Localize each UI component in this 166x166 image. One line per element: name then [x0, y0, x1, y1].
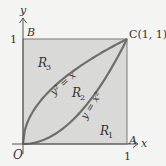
- x-axis-label: x: [141, 137, 148, 150]
- svg-text:1: 1: [108, 131, 113, 140]
- region-diagram: x y 1 1 O B A C(1, 1) y² = x y = x² R 3 …: [0, 0, 166, 166]
- x-tick-1: 1: [124, 150, 131, 163]
- point-b-label: B: [26, 26, 35, 39]
- y-tick-1: 1: [10, 33, 17, 46]
- point-a-label: A: [128, 134, 137, 147]
- y-axis-label: y: [19, 4, 27, 17]
- svg-text:3: 3: [46, 63, 51, 72]
- point-c-label: C(1, 1): [129, 28, 166, 41]
- origin-label: O: [13, 148, 23, 162]
- svg-text:2: 2: [80, 93, 85, 102]
